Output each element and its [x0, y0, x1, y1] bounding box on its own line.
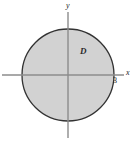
x-axis-tick-label-3: 3: [113, 77, 117, 85]
region-label-D: D: [80, 47, 87, 56]
x-axis-label: x: [126, 69, 130, 77]
figure-canvas: [0, 0, 138, 141]
circle-region-figure: y x 3 D: [0, 0, 138, 141]
y-axis-label: y: [66, 2, 70, 10]
